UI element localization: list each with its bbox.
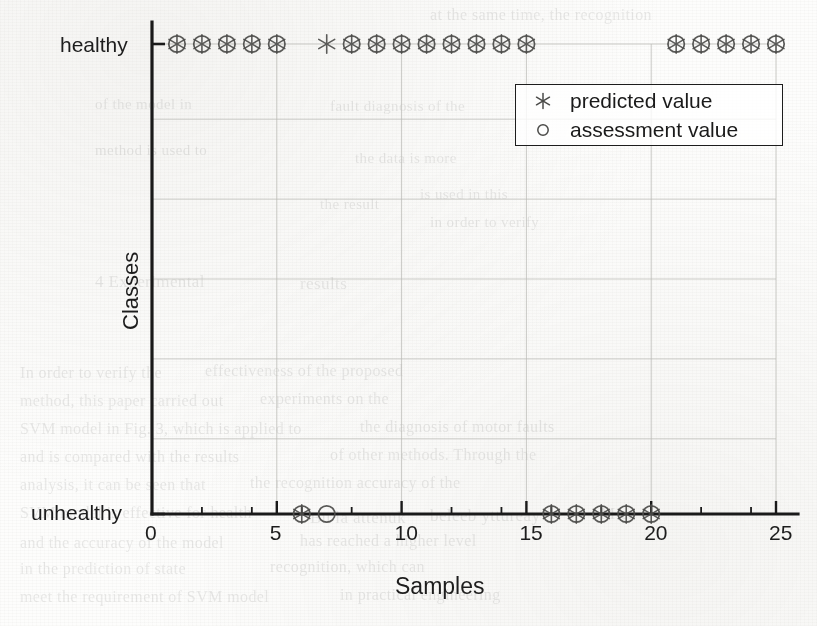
circle-marker-icon [516, 120, 570, 140]
y-tick-label-unhealthy: unhealthy [31, 501, 122, 525]
x-tick-label: 0 [145, 521, 157, 545]
legend-label-predicted: predicted value [570, 89, 712, 113]
legend-entry-assessment: assessment value [516, 114, 782, 145]
x-tick-label: 25 [769, 521, 792, 545]
classification-scatter-chart: Classes Samples healthy unhealthy 051015… [0, 0, 817, 626]
x-tick-label: 5 [270, 521, 282, 545]
y-axis-title: Classes [118, 252, 144, 330]
x-tick-label: 15 [519, 521, 542, 545]
x-axis-title: Samples [395, 573, 484, 600]
x-tick-label: 20 [644, 521, 667, 545]
chart-legend: predicted value assessment value [515, 84, 783, 146]
legend-entry-predicted: predicted value [516, 85, 782, 116]
asterisk-marker-icon [516, 91, 570, 111]
x-tick-label: 10 [395, 521, 418, 545]
y-tick-label-healthy: healthy [60, 33, 128, 57]
legend-label-assessment: assessment value [570, 118, 738, 142]
